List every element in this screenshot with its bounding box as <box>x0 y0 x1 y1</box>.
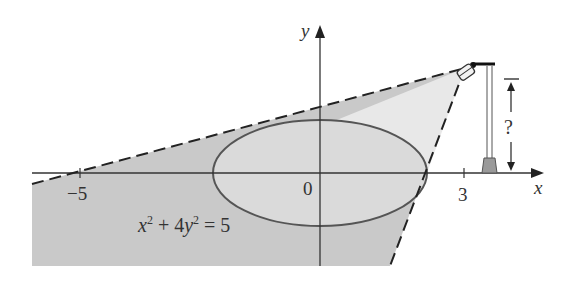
diagram-canvas: ? x y −5 0 3 x2 + 4y2 = 5 <box>0 0 566 284</box>
x-axis-label: x <box>533 177 543 198</box>
tick-label-neg5: −5 <box>67 183 87 204</box>
origin-label: 0 <box>303 178 313 199</box>
tick-label-3: 3 <box>458 184 468 205</box>
y-axis-label: y <box>299 20 310 41</box>
street-lamp-icon <box>456 62 497 173</box>
height-unknown-label: ? <box>504 116 513 138</box>
arrow-up-icon <box>507 82 515 91</box>
y-axis-arrow-icon <box>315 25 325 38</box>
arrow-down-icon <box>507 162 515 171</box>
